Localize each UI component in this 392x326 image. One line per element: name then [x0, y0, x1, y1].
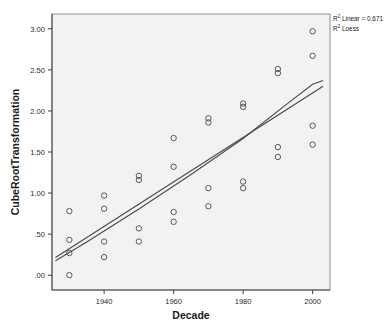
y-axis-tick-label: 3.00 — [30, 25, 45, 34]
y-axis-tick-label: 1.00 — [30, 189, 45, 198]
x-axis-tick-label: 1960 — [165, 297, 182, 306]
x-axis-title: Decade — [172, 309, 210, 321]
y-axis-tick-label: .00 — [34, 271, 45, 280]
legend-r2-loess: R2 Loess — [333, 24, 359, 32]
y-axis-title: CubeRootTransformation — [9, 89, 21, 216]
y-axis-tick-label: 2.00 — [30, 107, 45, 116]
x-axis-tick-label: 1940 — [96, 297, 113, 306]
x-axis-tick-label: 1980 — [235, 297, 252, 306]
y-axis-tick-label: 2.50 — [30, 66, 45, 75]
legend: R2 Linear = 0.671R2 Loess — [333, 14, 383, 31]
y-axis-tick-label: 1.50 — [30, 148, 45, 157]
plot-panel — [52, 14, 330, 290]
y-axis-tick-label: .50 — [34, 230, 45, 239]
chart-canvas: .00.501.001.502.002.503.0019401960198020… — [0, 0, 392, 326]
x-axis-tick-label: 2000 — [304, 297, 321, 306]
scatter-plot-figure: .00.501.001.502.002.503.0019401960198020… — [0, 0, 392, 326]
legend-r2-linear: R2 Linear = 0.671 — [333, 14, 383, 22]
